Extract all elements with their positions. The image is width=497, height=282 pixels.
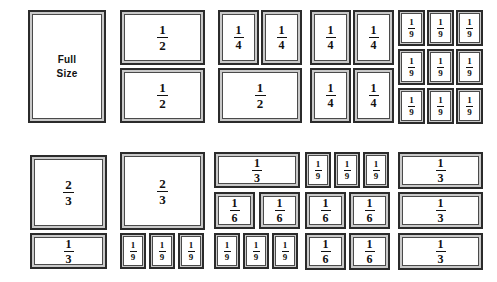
- block-face: FullSize: [32, 14, 102, 119]
- fraction-numerator: 1: [408, 57, 415, 66]
- fraction-board: FullSize12121414121414141419191919191919…: [0, 0, 497, 282]
- fraction-block[interactable]: 16: [349, 192, 390, 229]
- block-face: 19: [152, 236, 172, 266]
- fraction-block[interactable]: 19: [456, 88, 483, 124]
- block-face: 16: [263, 196, 296, 225]
- fraction-block[interactable]: 16: [214, 192, 255, 229]
- fraction-block[interactable]: 19: [334, 152, 360, 188]
- block-face: 12: [124, 14, 201, 61]
- fraction-block[interactable]: 16: [305, 233, 346, 270]
- fraction-block[interactable]: 16: [305, 192, 346, 229]
- block-face: 19: [459, 13, 480, 43]
- fraction-block[interactable]: 19: [456, 10, 483, 46]
- fraction-ninth: 19: [130, 241, 137, 262]
- fraction-block[interactable]: 23: [120, 152, 205, 230]
- fraction-block[interactable]: 13: [398, 152, 483, 189]
- fraction-denominator: 9: [188, 253, 195, 262]
- fraction-denominator: 6: [321, 253, 331, 265]
- block-face: 16: [309, 196, 342, 225]
- fraction-block[interactable]: 19: [305, 152, 331, 188]
- fraction-block[interactable]: 19: [214, 233, 240, 269]
- block-bevel: 14: [263, 12, 300, 63]
- fraction-block[interactable]: 19: [398, 88, 425, 124]
- fraction-block[interactable]: 12: [120, 10, 205, 65]
- fraction-block[interactable]: 19: [149, 233, 175, 269]
- fraction-block[interactable]: 23: [30, 155, 107, 230]
- fraction-block[interactable]: FullSize: [28, 10, 106, 123]
- fraction-block[interactable]: 14: [310, 10, 351, 65]
- fraction-block[interactable]: 19: [427, 88, 454, 124]
- block-face: 14: [265, 14, 298, 61]
- fraction-two_thirds: 23: [63, 178, 74, 207]
- fraction-numerator: 1: [64, 238, 74, 250]
- fraction-numerator: 1: [437, 96, 444, 105]
- fraction-numerator: 1: [252, 157, 262, 169]
- fraction-numerator: 1: [321, 197, 331, 209]
- fraction-denominator: 9: [408, 30, 415, 39]
- fraction-block[interactable]: 16: [349, 233, 390, 270]
- fraction-numerator: 1: [159, 241, 166, 250]
- fraction-quarter: 14: [326, 24, 336, 51]
- block-face: 19: [401, 13, 422, 43]
- fraction-denominator: 9: [408, 108, 415, 117]
- fraction-numerator: 1: [157, 81, 168, 94]
- fraction-block[interactable]: 16: [259, 192, 300, 229]
- fraction-block[interactable]: 19: [456, 49, 483, 85]
- fraction-block[interactable]: 12: [120, 68, 205, 123]
- fraction-block[interactable]: 14: [353, 10, 394, 65]
- fraction-block[interactable]: 14: [261, 10, 302, 65]
- fraction-block[interactable]: 19: [272, 233, 298, 269]
- fraction-denominator: 9: [466, 69, 473, 78]
- fraction-block[interactable]: 19: [398, 49, 425, 85]
- fraction-numerator: 1: [437, 57, 444, 66]
- fraction-numerator: 1: [224, 241, 231, 250]
- fraction-block[interactable]: 13: [398, 233, 483, 270]
- fraction-denominator: 9: [466, 108, 473, 117]
- fraction-block[interactable]: 14: [218, 10, 259, 65]
- fraction-denominator: 3: [436, 212, 446, 224]
- fraction-block[interactable]: 12: [218, 68, 302, 123]
- block-bevel: 23: [122, 154, 203, 228]
- fraction-block[interactable]: 13: [214, 152, 300, 188]
- fraction-numerator: 1: [466, 96, 473, 105]
- fraction-denominator: 3: [63, 194, 74, 207]
- full-size-label: FullSize: [57, 53, 78, 80]
- fraction-denominator: 4: [277, 39, 287, 51]
- fraction-denominator: 4: [234, 39, 244, 51]
- block-bevel: 14: [220, 12, 257, 63]
- fraction-denominator: 9: [315, 172, 322, 181]
- fraction-denominator: 3: [64, 253, 74, 265]
- block-face: 23: [124, 156, 201, 226]
- block-bevel: 19: [458, 51, 481, 83]
- fraction-numerator: 1: [275, 197, 285, 209]
- fraction-ninth: 19: [437, 18, 444, 39]
- block-face: 13: [34, 237, 103, 265]
- fraction-denominator: 3: [157, 193, 168, 206]
- fraction-block[interactable]: 19: [363, 152, 389, 188]
- fraction-block[interactable]: 19: [120, 233, 146, 269]
- fraction-block[interactable]: 19: [427, 49, 454, 85]
- fraction-block[interactable]: 19: [178, 233, 204, 269]
- block-face: 14: [222, 14, 255, 61]
- block-face: 13: [218, 156, 296, 184]
- fraction-block[interactable]: 19: [243, 233, 269, 269]
- block-bevel: 19: [400, 12, 423, 44]
- fraction-numerator: 1: [436, 157, 446, 169]
- fraction-block[interactable]: 13: [398, 192, 483, 229]
- block-bevel: 19: [458, 12, 481, 44]
- fraction-half: 12: [255, 81, 266, 110]
- block-bevel: 16: [261, 194, 298, 227]
- fraction-denominator: 2: [157, 39, 168, 52]
- block-face: 19: [366, 155, 386, 185]
- fraction-denominator: 4: [326, 39, 336, 51]
- fraction-sixth: 16: [365, 238, 375, 265]
- fraction-block[interactable]: 13: [30, 233, 107, 269]
- block-bevel: 16: [307, 194, 344, 227]
- fraction-block[interactable]: 19: [398, 10, 425, 46]
- fraction-block[interactable]: 14: [310, 68, 351, 123]
- fraction-block[interactable]: 19: [427, 10, 454, 46]
- block-bevel: 19: [151, 235, 173, 267]
- fraction-block[interactable]: 14: [353, 68, 394, 123]
- fraction-denominator: 9: [253, 253, 260, 262]
- fraction-denominator: 4: [369, 97, 379, 109]
